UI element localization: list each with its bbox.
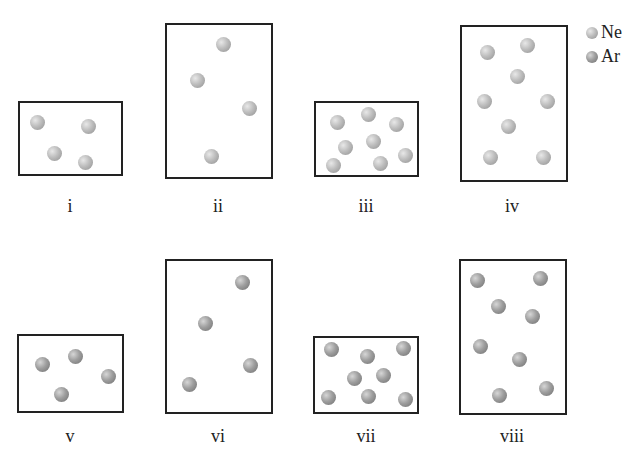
ar-particle-icon <box>396 341 411 356</box>
legend-ar: Ar <box>586 46 620 67</box>
legend-ne-label: Ne <box>601 22 622 43</box>
container-label: vii <box>356 426 375 447</box>
ne-particle-icon <box>204 149 219 164</box>
ar-particle-icon <box>473 339 488 354</box>
ne-particle-icon <box>586 27 598 39</box>
ne-particle-icon <box>190 73 205 88</box>
ne-particle-icon <box>510 69 525 84</box>
ar-particle-icon <box>539 381 554 396</box>
container-label: ii <box>213 196 223 217</box>
ar-particle-icon <box>35 357 50 372</box>
container-box-vi <box>165 259 273 414</box>
ne-particle-icon <box>398 148 413 163</box>
ne-particle-icon <box>216 37 231 52</box>
ar-particle-icon <box>198 316 213 331</box>
ar-particle-icon <box>512 352 527 367</box>
legend-ne: Ne <box>586 22 622 43</box>
ar-particle-icon <box>324 342 339 357</box>
ne-particle-icon <box>326 158 341 173</box>
container-label: v <box>66 426 75 447</box>
container-label: i <box>67 196 72 217</box>
ne-particle-icon <box>477 94 492 109</box>
ar-particle-icon <box>470 273 485 288</box>
container-label: viii <box>500 426 524 447</box>
legend-ar-label: Ar <box>601 46 620 67</box>
ne-particle-icon <box>373 156 388 171</box>
ar-particle-icon <box>321 390 336 405</box>
ar-particle-icon <box>235 275 250 290</box>
ne-particle-icon <box>78 155 93 170</box>
ar-particle-icon <box>360 349 375 364</box>
ne-particle-icon <box>330 115 345 130</box>
ar-particle-icon <box>586 51 598 63</box>
ar-particle-icon <box>492 388 507 403</box>
ar-particle-icon <box>376 368 391 383</box>
ne-particle-icon <box>540 94 555 109</box>
ar-particle-icon <box>101 369 116 384</box>
ar-particle-icon <box>525 309 540 324</box>
ne-particle-icon <box>366 134 381 149</box>
ne-particle-icon <box>520 38 535 53</box>
ar-particle-icon <box>243 358 258 373</box>
ar-particle-icon <box>361 389 376 404</box>
container-label: vi <box>211 426 225 447</box>
ne-particle-icon <box>536 150 551 165</box>
ne-particle-icon <box>480 45 495 60</box>
ar-particle-icon <box>398 392 413 407</box>
ne-particle-icon <box>47 146 62 161</box>
ar-particle-icon <box>533 271 548 286</box>
ne-particle-icon <box>389 117 404 132</box>
ne-particle-icon <box>338 140 353 155</box>
ne-particle-icon <box>483 150 498 165</box>
ar-particle-icon <box>54 387 69 402</box>
ar-particle-icon <box>491 299 506 314</box>
container-label: iv <box>505 196 519 217</box>
ne-particle-icon <box>501 119 516 134</box>
ne-particle-icon <box>30 115 45 130</box>
ar-particle-icon <box>347 371 362 386</box>
ne-particle-icon <box>81 119 96 134</box>
container-label: iii <box>358 196 373 217</box>
ar-particle-icon <box>68 349 83 364</box>
ne-particle-icon <box>361 107 376 122</box>
container-box-i <box>18 101 123 176</box>
ne-particle-icon <box>242 101 257 116</box>
ar-particle-icon <box>182 377 197 392</box>
